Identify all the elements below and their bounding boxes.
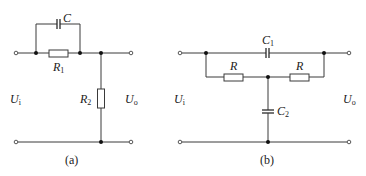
terminal-a-out-bottom (129, 140, 133, 144)
label-a-capacitor: C (63, 12, 71, 24)
label-b-c1: C1 (262, 34, 274, 48)
circuit-drawing (0, 0, 366, 176)
label-b-r-left: R (230, 60, 237, 72)
label-b-r-right: R (296, 60, 303, 72)
terminal-b-in-top (178, 51, 182, 55)
terminal-b-out-bottom (347, 140, 351, 144)
label-a-r1: R1 (53, 61, 64, 75)
circuit-figure: C R1 R2 Ui Uo (a) C1 R R C2 Ui Uo (b) (0, 0, 366, 176)
resistor-r2 (98, 89, 105, 108)
resistor-r-right (290, 74, 309, 81)
label-a-input-voltage: Ui (10, 93, 21, 107)
label-a-r2: R2 (80, 93, 91, 107)
label-a-output-voltage: Uo (125, 93, 138, 107)
resistor-r-left (224, 74, 243, 81)
resistor-r1 (49, 50, 68, 57)
terminal-b-in-bottom (178, 140, 182, 144)
terminal-a-in-top (14, 51, 18, 55)
terminal-a-out-top (129, 51, 133, 55)
label-b-output-voltage: Uo (343, 93, 356, 107)
label-b-c2: C2 (277, 105, 289, 119)
caption-b: (b) (260, 154, 274, 166)
caption-a: (a) (65, 154, 78, 166)
circuit-a (14, 19, 133, 144)
label-b-input-voltage: Ui (174, 93, 185, 107)
terminal-b-out-top (347, 51, 351, 55)
circuit-b (178, 48, 351, 144)
terminal-a-in-bottom (14, 140, 18, 144)
